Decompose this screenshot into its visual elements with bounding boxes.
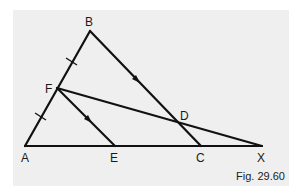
label-x: X: [257, 151, 265, 165]
label-f: F: [45, 82, 52, 96]
segment-bc: [90, 31, 201, 146]
label-c: C: [196, 151, 205, 165]
geometry-diagram: B F D A E C X Fig. 29.60: [0, 0, 294, 191]
label-e: E: [110, 151, 118, 165]
label-a: A: [21, 151, 29, 165]
figure-caption: Fig. 29.60: [236, 170, 285, 182]
label-b: B: [85, 15, 93, 29]
label-d: D: [180, 109, 189, 123]
